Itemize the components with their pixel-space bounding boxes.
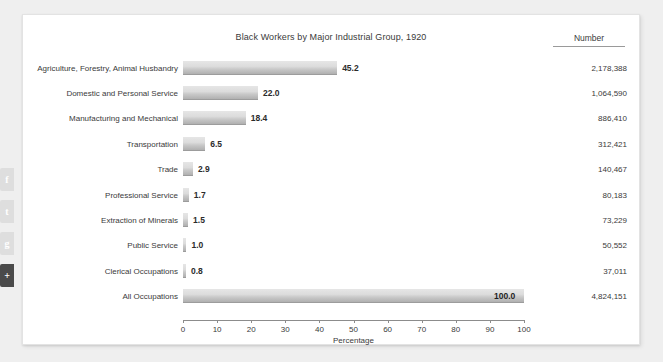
bar-value-label: 45.2 [342,63,359,73]
bar[interactable] [183,86,258,100]
x-axis-tick-label: 20 [247,325,256,334]
category-label: Transportation [23,139,178,148]
bar[interactable] [183,188,189,202]
bar-track: 6.5 [183,131,524,156]
chart-card: Black Workers by Major Industrial Group,… [22,14,640,345]
google-share-icon[interactable]: g [0,232,14,255]
x-axis-tick [422,320,423,323]
twitter-share-icon[interactable]: t [0,200,14,223]
x-axis-tick [456,320,457,323]
row-number-value: 80,183 [555,190,627,199]
x-axis-tick [217,320,218,323]
x-axis-tick [319,320,320,323]
facebook-share-icon[interactable]: f [0,168,14,191]
bar-value-label: 100.0 [494,291,515,301]
x-axis-tick-label: 10 [213,325,222,334]
category-label: Professional Service [23,190,178,199]
x-axis-tick-label: 50 [349,325,358,334]
bar-value-label: 0.8 [191,266,203,276]
bar[interactable] [183,162,193,176]
bar-track: 45.2 [183,55,524,80]
bar[interactable] [183,111,246,125]
row-number-value: 886,410 [555,114,627,123]
chart-row: Agriculture, Forestry, Animal Husbandry4… [23,55,641,80]
bar-track: 1.7 [183,182,524,207]
bar-track: 1.0 [183,233,524,258]
bar-value-label: 1.0 [191,240,203,250]
row-number-value: 4,824,151 [555,292,627,301]
chart-row: Extraction of Minerals1.573,229 [23,207,641,232]
row-number-value: 37,011 [555,266,627,275]
bar[interactable] [183,238,186,252]
x-axis-tick-label: 80 [451,325,460,334]
bar[interactable] [183,213,188,227]
category-label: Domestic and Personal Service [23,89,178,98]
category-label: Agriculture, Forestry, Animal Husbandry [23,63,178,72]
more-share-icon[interactable]: + [0,264,14,287]
chart-plot-area: Agriculture, Forestry, Animal Husbandry4… [23,55,641,320]
row-number-value: 50,552 [555,241,627,250]
bar-value-label: 22.0 [263,88,280,98]
chart-row: All Occupations100.04,824,151 [23,284,641,309]
x-axis-tick-label: 30 [281,325,290,334]
bar-track: 0.8 [183,258,524,283]
row-number-value: 312,421 [555,139,627,148]
bar[interactable] [183,61,337,75]
x-axis-tick-label: 90 [485,325,494,334]
chart-row: Clerical Occupations0.837,011 [23,258,641,283]
x-axis-tick [251,320,252,323]
chart-row: Transportation6.5312,421 [23,131,641,156]
category-label: All Occupations [23,292,178,301]
row-number-value: 1,064,590 [555,89,627,98]
x-axis-title: Percentage [183,336,524,345]
chart-row: Professional Service1.780,183 [23,182,641,207]
bar-track: 2.9 [183,157,524,182]
chart-row: Manufacturing and Mechanical18.4886,410 [23,106,641,131]
bar[interactable] [183,289,524,303]
social-share-strip: ftg+ [0,168,14,296]
x-axis-tick-label: 0 [181,325,185,334]
row-number-value: 73,229 [555,216,627,225]
category-label: Public Service [23,241,178,250]
x-axis-tick [285,320,286,323]
category-label: Extraction of Minerals [23,216,178,225]
chart-row: Domestic and Personal Service22.01,064,5… [23,80,641,105]
bar-track: 100.0 [183,284,524,309]
bar-value-label: 18.4 [251,113,268,123]
x-axis-tick-label: 100 [517,325,530,334]
bar-value-label: 2.9 [198,164,210,174]
row-number-value: 2,178,388 [555,63,627,72]
x-axis: Percentage 0102030405060708090100 [183,320,524,344]
bar-value-label: 1.7 [194,190,206,200]
bar[interactable] [183,137,205,151]
screenshot-root: ftg+ Black Workers by Major Industrial G… [0,0,663,362]
bar-value-label: 1.5 [193,215,205,225]
chart-row: Trade2.9140,467 [23,157,641,182]
category-label: Trade [23,165,178,174]
category-label: Clerical Occupations [23,266,178,275]
x-axis-tick [490,320,491,323]
x-axis-tick-label: 40 [315,325,324,334]
x-axis-tick [388,320,389,323]
number-column-header: Number [553,33,625,47]
chart-row: Public Service1.050,552 [23,233,641,258]
row-number-value: 140,467 [555,165,627,174]
x-axis-tick [524,320,525,323]
x-axis-tick [354,320,355,323]
bar-track: 18.4 [183,106,524,131]
bar[interactable] [183,264,186,278]
chart-title: Black Workers by Major Industrial Group,… [23,32,639,42]
bar-track: 22.0 [183,80,524,105]
bar-track: 1.5 [183,207,524,232]
x-axis-tick-label: 60 [383,325,392,334]
bar-value-label: 6.5 [210,139,222,149]
category-label: Manufacturing and Mechanical [23,114,178,123]
x-axis-tick [183,320,184,323]
x-axis-tick-label: 70 [417,325,426,334]
